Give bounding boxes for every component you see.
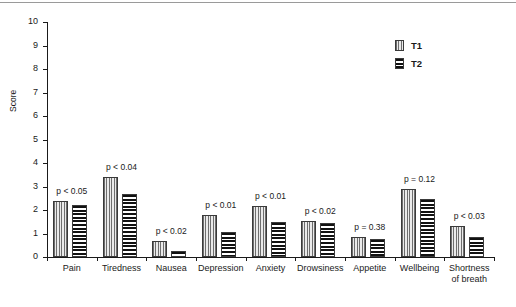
bar-t2 bbox=[420, 199, 435, 257]
top-divider bbox=[0, 2, 516, 3]
x-axis-label: Wellbeing bbox=[395, 263, 445, 274]
bar-t2 bbox=[122, 194, 137, 257]
legend-swatch-t2-icon bbox=[395, 58, 404, 69]
x-axis-line bbox=[47, 257, 494, 258]
legend-item-t1: T1 bbox=[395, 36, 465, 54]
legend-label-t2: T2 bbox=[411, 58, 422, 69]
y-tick-label: 2 bbox=[33, 203, 38, 215]
y-tick-label: 6 bbox=[33, 109, 38, 121]
x-tick bbox=[345, 257, 346, 261]
y-tick-label: 4 bbox=[33, 156, 38, 168]
p-value-annotation: p < 0.02 bbox=[295, 206, 345, 216]
x-tick bbox=[494, 257, 495, 261]
x-tick bbox=[246, 257, 247, 261]
x-tick bbox=[97, 257, 98, 261]
legend-item-t2: T2 bbox=[395, 54, 465, 72]
x-tick bbox=[444, 257, 445, 261]
y-tick-label: 8 bbox=[33, 62, 38, 74]
bar-t2 bbox=[221, 232, 236, 257]
x-axis-label: Tiredness bbox=[97, 263, 147, 274]
p-value-annotation: p = 0.38 bbox=[345, 222, 395, 232]
bar-t1 bbox=[401, 189, 416, 257]
x-axis-label: Pain bbox=[47, 263, 97, 274]
x-tick bbox=[295, 257, 296, 261]
bar-t1 bbox=[450, 226, 465, 257]
y-tick-label: 10 bbox=[28, 15, 38, 27]
bar-t2 bbox=[271, 222, 286, 257]
bar-t1 bbox=[252, 206, 267, 257]
legend-label-t1: T1 bbox=[411, 40, 422, 51]
x-tick bbox=[196, 257, 197, 261]
x-axis-label: Appetite bbox=[345, 263, 395, 274]
bar-t1 bbox=[103, 177, 118, 257]
p-value-annotation: p < 0.01 bbox=[246, 191, 296, 201]
y-tick-label: 5 bbox=[33, 133, 38, 145]
bar-group: p < 0.02 bbox=[146, 22, 196, 257]
p-value-annotation: p < 0.03 bbox=[444, 211, 494, 221]
bar-t2 bbox=[370, 239, 385, 257]
y-tick-label: 3 bbox=[33, 180, 38, 192]
bar-t2 bbox=[171, 251, 186, 257]
p-value-annotation: p < 0.05 bbox=[47, 186, 97, 196]
x-axis-label: Drowsiness bbox=[295, 263, 345, 274]
bar-group: p < 0.04 bbox=[97, 22, 147, 257]
x-tick bbox=[395, 257, 396, 261]
x-tick bbox=[47, 257, 48, 261]
bar-t2 bbox=[320, 223, 335, 257]
bar-t2 bbox=[72, 205, 87, 257]
chart-legend: T1 T2 bbox=[395, 36, 465, 72]
p-value-annotation: p < 0.01 bbox=[196, 200, 246, 210]
bar-group: p < 0.01 bbox=[196, 22, 246, 257]
bar-t1 bbox=[301, 221, 316, 257]
x-axis-label: Nausea bbox=[146, 263, 196, 274]
chart-figure: 012345678910 p < 0.05p < 0.04p < 0.02p <… bbox=[0, 0, 516, 307]
p-value-annotation: p < 0.02 bbox=[146, 226, 196, 236]
bar-t1 bbox=[202, 215, 217, 257]
x-axis-label: Shortness of breath bbox=[444, 263, 494, 285]
bar-t1 bbox=[152, 241, 167, 257]
x-axis-label: Anxiety bbox=[246, 263, 296, 274]
bar-group: p < 0.05 bbox=[47, 22, 97, 257]
y-axis-title: Score bbox=[8, 90, 18, 112]
y-tick-label: 1 bbox=[33, 227, 38, 239]
x-axis-label: Depression bbox=[196, 263, 246, 274]
legend-swatch-t1-icon bbox=[395, 40, 404, 51]
bar-t1 bbox=[351, 237, 366, 257]
bar-group: p = 0.38 bbox=[345, 22, 395, 257]
x-tick bbox=[146, 257, 147, 261]
bar-group: p < 0.01 bbox=[246, 22, 296, 257]
p-value-annotation: p = 0.12 bbox=[395, 174, 445, 184]
y-tick-label: 7 bbox=[33, 86, 38, 98]
bar-t1 bbox=[53, 201, 68, 257]
bar-t2 bbox=[469, 237, 484, 257]
bar-group: p < 0.02 bbox=[295, 22, 345, 257]
y-tick-label: 9 bbox=[33, 39, 38, 51]
p-value-annotation: p < 0.04 bbox=[97, 162, 147, 172]
y-tick-label: 0 bbox=[33, 250, 38, 262]
